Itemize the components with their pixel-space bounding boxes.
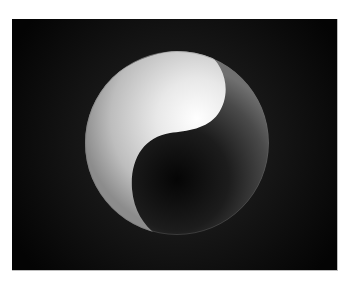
yin-yang-sphere-artwork	[12, 19, 337, 270]
artwork-panel	[12, 19, 338, 271]
image-canvas	[0, 0, 352, 281]
